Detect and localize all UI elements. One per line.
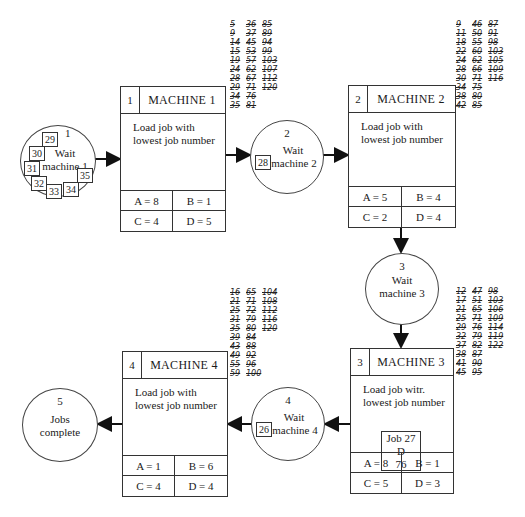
wait-node-number: 2 xyxy=(251,127,323,139)
tally-row: 3887 xyxy=(456,350,506,359)
tally-row: 2571109 xyxy=(456,314,506,323)
stat-d: D = 4 xyxy=(175,476,227,496)
tally-row: 115091 xyxy=(456,29,506,38)
tally-row: 2171108 xyxy=(230,297,280,306)
machine-stats: A = 8 B = 1 C = 4 D = 5 xyxy=(121,190,225,231)
tally-row: 2971120 xyxy=(230,83,280,92)
node-number: 5 xyxy=(23,395,97,407)
machine-rule: Load job witr.lowest job number xyxy=(363,383,445,409)
tally-row: 93789 xyxy=(230,29,280,38)
machine-stats: A = 8 B = 1 C = 5 D = 3 xyxy=(351,452,453,493)
queued-job: 33 xyxy=(46,184,62,199)
tally-row: 4595 xyxy=(456,368,506,377)
queued-job: 28 xyxy=(255,155,271,170)
tally-row: 3580120 xyxy=(230,324,280,333)
tally-row: 2867112 xyxy=(230,74,280,83)
wait-node-label: Wait xyxy=(366,274,438,287)
stat-c: C = 4 xyxy=(123,476,175,496)
tally-row: 1957103 xyxy=(230,56,280,65)
queued-job: 26 xyxy=(256,422,272,437)
tally-row: 4190 xyxy=(456,359,506,368)
queued-job: 34 xyxy=(63,182,79,197)
node-label: complete xyxy=(23,426,97,439)
tally-row: 3581 xyxy=(230,101,280,110)
stat-c: C = 5 xyxy=(351,473,402,493)
jobs-complete-node: 5 Jobs complete xyxy=(22,388,98,462)
machine-title: MACHINE 4 xyxy=(141,352,227,378)
stat-a: A = 1 xyxy=(123,456,175,476)
wait-node-label: machine 4 xyxy=(266,424,324,437)
tally-row: 2462105 xyxy=(456,56,506,65)
tally-row: 2260103 xyxy=(456,47,506,56)
queued-job: 29 xyxy=(42,132,58,147)
stat-b: B = 6 xyxy=(175,456,227,476)
tally-row: 2462107 xyxy=(230,65,280,74)
stat-a: A = 8 xyxy=(121,191,173,211)
tally-row: 3071116 xyxy=(456,74,506,83)
tally-row: 185598 xyxy=(456,38,506,47)
tally-row: 5596 xyxy=(230,360,280,369)
tally-row: 3279119 xyxy=(456,332,506,341)
node-label: Jobs xyxy=(23,413,97,426)
wait-node-label: Wait xyxy=(264,411,324,424)
wait-machine-4-node: 4 Wait machine 4 26 xyxy=(251,387,325,461)
tally-row: 3984 xyxy=(230,333,280,342)
stat-b: B = 1 xyxy=(173,191,225,211)
tally-machine-2: 9468711509118559822601032462105286610930… xyxy=(456,20,506,110)
wait-node-label: machine 3 xyxy=(366,287,438,300)
tally-row: 3880 xyxy=(456,92,506,101)
machine-title: MACHINE 1 xyxy=(139,87,225,113)
stat-b: B = 1 xyxy=(402,453,453,473)
stat-a: A = 5 xyxy=(349,187,402,207)
stat-b: B = 4 xyxy=(402,187,455,207)
wait-machine-1-node: 1 Wait machine 1 29 30 31 32 33 34 35 xyxy=(20,125,96,197)
tally-row: 3475 xyxy=(456,83,506,92)
queued-job: 32 xyxy=(31,176,47,191)
machine-1-box: 1 MACHINE 1 Load job withlowest job numb… xyxy=(120,86,226,232)
queued-job: 30 xyxy=(29,146,45,161)
machine-2-box: 2 MACHINE 2 Load job withlowest job numb… xyxy=(348,85,456,228)
tally-machine-1: 5368593789144594155399195710324621072867… xyxy=(230,20,280,110)
tally-row: 144594 xyxy=(230,38,280,47)
tally-machine-3: 1247981751103216510625711092976114327911… xyxy=(456,287,506,377)
machine-rule: Load job withlowest job number xyxy=(133,121,215,147)
tally-row: 2572112 xyxy=(230,306,280,315)
tally-row: 4388 xyxy=(230,342,280,351)
tally-row: 2866109 xyxy=(456,65,506,74)
wait-node-number: 1 xyxy=(65,127,71,139)
tally-row: 1665104 xyxy=(230,288,280,297)
machine-number: 1 xyxy=(121,87,140,113)
tally-machine-4: 1665104217110825721123179116358012039844… xyxy=(230,288,280,378)
machine-4-box: 4 MACHINE 4 Load job withlowest job numb… xyxy=(122,351,228,497)
machine-rule: Load job withlowest job number xyxy=(361,120,443,146)
machine-stats: A = 1 B = 6 C = 4 D = 4 xyxy=(123,455,227,496)
machine-title: MACHINE 3 xyxy=(369,349,453,375)
tally-row: 4285 xyxy=(456,101,506,110)
wait-node-label: Wait xyxy=(263,144,323,157)
stat-d: D = 5 xyxy=(173,211,225,231)
tally-row: 124798 xyxy=(456,287,506,296)
machine-title: MACHINE 2 xyxy=(367,86,455,112)
stat-c: C = 4 xyxy=(121,211,173,231)
stat-c: C = 2 xyxy=(349,207,402,227)
machine-stats: A = 5 B = 4 C = 2 D = 4 xyxy=(349,186,455,227)
tally-row: 2976114 xyxy=(456,323,506,332)
stat-d: D = 3 xyxy=(402,473,453,493)
tally-row: 155399 xyxy=(230,47,280,56)
wait-node-number: 4 xyxy=(252,394,324,406)
machine-rule: Load job withlowest job number xyxy=(135,386,217,412)
wait-machine-3-node: 3 Wait machine 3 xyxy=(365,253,439,325)
tally-row: 94687 xyxy=(456,20,506,29)
wait-node-label: machine 2 xyxy=(265,157,323,170)
machine-number: 3 xyxy=(351,349,370,375)
stat-d: D = 4 xyxy=(402,207,455,227)
tally-row: 59100 xyxy=(230,369,280,378)
tally-row: 53685 xyxy=(230,20,280,29)
wait-machine-2-node: 2 Wait machine 2 28 xyxy=(250,120,324,194)
queued-job: 31 xyxy=(24,161,40,176)
tally-row: 4992 xyxy=(230,351,280,360)
tally-row: 3179116 xyxy=(230,315,280,324)
queued-job: 35 xyxy=(77,168,93,183)
tally-row: 3782122 xyxy=(456,341,506,350)
wait-node-number: 3 xyxy=(366,260,438,272)
